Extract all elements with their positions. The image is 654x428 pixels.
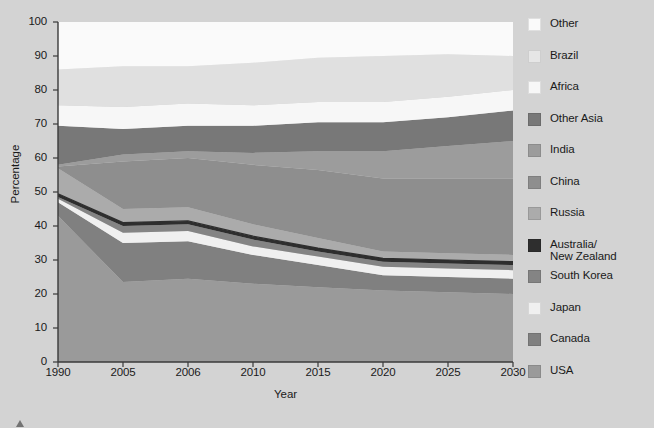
legend-color-swatch <box>528 302 541 315</box>
y-tick-label: 30 <box>13 253 47 265</box>
x-tick-label: 2010 <box>226 366 280 378</box>
legend-color-swatch <box>528 18 541 31</box>
legend-item[interactable]: India <box>528 143 654 157</box>
legend-item-label: Russia <box>550 206 585 219</box>
legend-item[interactable]: South Korea <box>528 269 654 283</box>
legend-color-swatch <box>528 81 541 94</box>
legend-item[interactable]: Australia/ New Zealand <box>528 238 654 263</box>
legend-item[interactable]: China <box>528 175 654 189</box>
legend-color-swatch <box>528 50 541 63</box>
legend-color-swatch <box>528 144 541 157</box>
legend-item[interactable]: Other Asia <box>528 112 654 126</box>
y-tick-label: 10 <box>13 321 47 333</box>
y-tick-marks <box>53 22 58 362</box>
x-axis-title: Year <box>58 388 513 400</box>
y-tick-label: 20 <box>13 287 47 299</box>
legend-item[interactable]: Russia <box>528 206 654 220</box>
legend-item-label: Other <box>550 17 578 30</box>
legend-item[interactable]: Japan <box>528 301 654 315</box>
legend-item-label: Brazil <box>550 49 578 62</box>
x-tick-label: 2005 <box>96 366 150 378</box>
legend-item-label: China <box>550 175 580 188</box>
x-tick-label: 1990 <box>31 366 85 378</box>
legend-item-label: Other Asia <box>550 112 603 125</box>
legend-item-label: USA <box>550 364 573 377</box>
area-bands <box>58 22 513 362</box>
stacked-area-plot <box>0 0 520 428</box>
legend-color-swatch <box>528 333 541 346</box>
legend-item-label: India <box>550 143 574 156</box>
legend-item[interactable]: Africa <box>528 80 654 94</box>
legend-color-swatch <box>528 365 541 378</box>
x-tick-label: 2020 <box>356 366 410 378</box>
y-tick-label: 70 <box>13 117 47 129</box>
legend-item[interactable]: Canada <box>528 332 654 346</box>
figure-caption <box>0 419 654 428</box>
legend-color-swatch <box>528 207 541 220</box>
legend-color-swatch <box>528 270 541 283</box>
legend-item[interactable]: Other <box>528 17 654 31</box>
x-tick-label: 2025 <box>421 366 475 378</box>
legend: OtherBrazilAfricaOther AsiaIndiaChinaRus… <box>524 0 654 428</box>
legend-item-label: Africa <box>550 80 579 93</box>
legend-item[interactable]: USA <box>528 364 654 378</box>
legend-color-swatch <box>528 239 541 252</box>
y-tick-label: 80 <box>13 83 47 95</box>
legend-color-swatch <box>528 113 541 126</box>
y-tick-label: 90 <box>13 49 47 61</box>
figure: 0102030405060708090100 19902005200620102… <box>0 0 654 428</box>
legend-item-label: Japan <box>550 301 581 314</box>
legend-color-swatch <box>528 176 541 189</box>
legend-item-label: Australia/ New Zealand <box>550 238 617 263</box>
legend-item[interactable]: Brazil <box>528 49 654 63</box>
x-tick-label: 2015 <box>291 366 345 378</box>
legend-item-label: Canada <box>550 332 590 345</box>
y-tick-label: 40 <box>13 219 47 231</box>
y-axis-title: Percentage <box>9 129 21 219</box>
y-tick-label: 100 <box>13 15 47 27</box>
plot-area: 0102030405060708090100 19902005200620102… <box>0 0 520 428</box>
x-tick-label: 2006 <box>161 366 215 378</box>
legend-item-label: South Korea <box>550 269 613 282</box>
